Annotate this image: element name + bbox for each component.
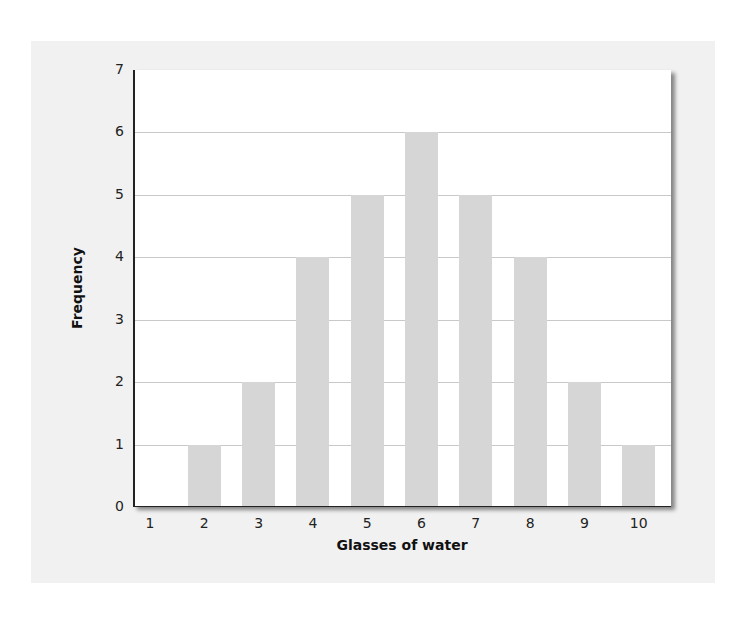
y-tick-label: 3	[104, 311, 124, 327]
y-tick-label: 7	[104, 61, 124, 77]
x-tick-label: 5	[352, 515, 382, 531]
x-tick-label: 2	[189, 515, 219, 531]
y-axis-line	[133, 70, 135, 507]
x-tick-label: 6	[407, 515, 437, 531]
x-tick-label: 3	[244, 515, 274, 531]
y-tick-label: 4	[104, 248, 124, 264]
y-tick-label: 2	[104, 373, 124, 389]
bar-4	[296, 257, 329, 507]
plot-area	[133, 70, 671, 507]
y-tick-label: 0	[104, 498, 124, 514]
bar-9	[568, 382, 601, 507]
y-tick-label: 6	[104, 123, 124, 139]
y-tick-label: 1	[104, 436, 124, 452]
gridline	[133, 320, 671, 321]
gridline	[133, 257, 671, 258]
bar-7	[459, 195, 492, 507]
gridline	[133, 195, 671, 196]
y-tick-label: 5	[104, 186, 124, 202]
x-tick-label: 8	[515, 515, 545, 531]
x-axis-line	[133, 506, 671, 508]
x-tick-label: 7	[461, 515, 491, 531]
gridline	[133, 132, 671, 133]
bar-8	[514, 257, 547, 507]
x-tick-label: 4	[298, 515, 328, 531]
x-axis-title: Glasses of water	[133, 537, 671, 553]
bar-2	[188, 445, 221, 507]
x-tick-label: 1	[135, 515, 165, 531]
y-axis-title: Frequency	[69, 247, 85, 329]
bar-3	[242, 382, 275, 507]
bar-5	[351, 195, 384, 507]
bar-10	[622, 445, 655, 507]
bar-6	[405, 132, 438, 507]
x-tick-label: 9	[569, 515, 599, 531]
x-tick-label: 10	[624, 515, 654, 531]
